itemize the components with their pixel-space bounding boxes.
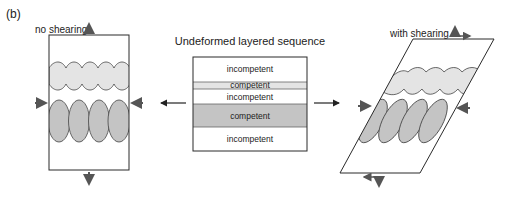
thin-competent-folds-sheared xyxy=(383,68,482,95)
with-shearing-panel: with shearing xyxy=(340,27,494,186)
thin-competent-folds xyxy=(49,62,130,90)
folding-diagram: (b) no shearing Undeformed layered seque… xyxy=(0,0,508,201)
layer-label: incompetent xyxy=(227,64,274,74)
layer-label: incompetent xyxy=(227,92,274,102)
layer-label: competent xyxy=(230,80,270,90)
layer-label: competent xyxy=(230,111,270,121)
thick-competent-folds xyxy=(48,100,130,142)
panel-label: (b) xyxy=(6,7,21,21)
no-shearing-panel: no shearing xyxy=(35,24,143,184)
with-shearing-label: with shearing xyxy=(389,28,449,39)
layer-label: incompetent xyxy=(227,134,274,144)
no-shearing-label: no shearing xyxy=(35,24,87,35)
undeformed-panel: Undeformed layered sequence incompetent … xyxy=(161,35,339,151)
undeformed-title: Undeformed layered sequence xyxy=(175,35,325,47)
